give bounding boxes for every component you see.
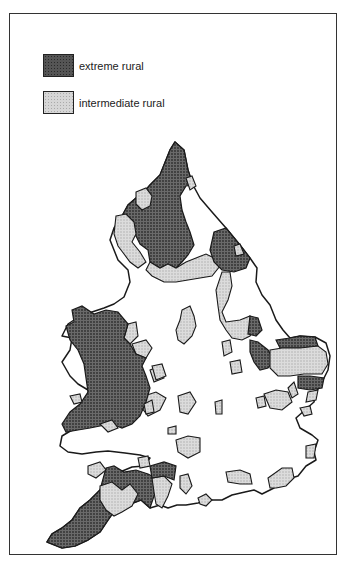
region-intermediate-moors-coast [234, 244, 244, 256]
region-extreme-suffolk [298, 376, 324, 390]
region-intermediate-central-6 [168, 426, 176, 434]
region-intermediate-wales-coast [70, 394, 82, 404]
region-intermediate-central-5 [215, 400, 222, 414]
region-intermediate-suffolk-coast [306, 390, 318, 402]
region-intermediate-norfolk [270, 346, 328, 376]
region-intermediate-essex [300, 406, 312, 416]
england-wales-map [0, 0, 347, 564]
region-intermediate-east-anglia-inland [256, 396, 266, 408]
region-intermediate-somerset [138, 456, 150, 468]
region-intermediate-kent-inland [306, 444, 316, 458]
region-intermediate-exmoor [88, 462, 106, 478]
region-intermediate-central-2 [230, 360, 242, 374]
